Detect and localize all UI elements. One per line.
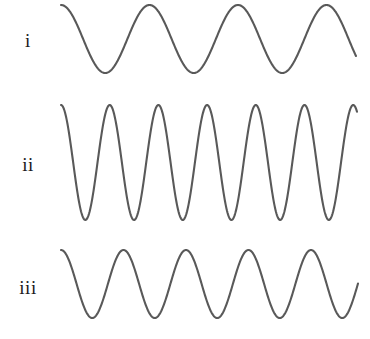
wave-path-iii <box>61 250 358 318</box>
figure-canvas: i ii iii <box>0 0 370 339</box>
wave-curve-iii <box>0 0 370 339</box>
